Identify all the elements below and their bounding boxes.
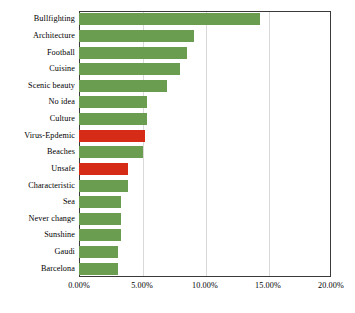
bar-fill [79, 163, 128, 175]
category-label: Cuisine [0, 63, 75, 75]
bar-fill [79, 113, 147, 125]
category-label: No idea [0, 96, 75, 108]
x-tick-label: 0.00% [68, 281, 90, 290]
bar-fill [79, 229, 121, 241]
x-tick-label: 20.00% [318, 281, 344, 290]
bars-layer [79, 11, 331, 277]
category-label: Scenic beauty [0, 80, 75, 92]
bar [79, 113, 147, 125]
bar [79, 96, 147, 108]
bar [79, 146, 143, 158]
value-axis: 0.00%5.00%10.00%15.00%20.00% [79, 281, 331, 295]
bar [79, 130, 145, 142]
category-label: Barcelona [0, 263, 75, 275]
bar-fill [79, 196, 121, 208]
bar-fill [79, 180, 128, 192]
bar [79, 196, 121, 208]
bar-chart: BullfightingArchitectureFootballCuisineS… [0, 0, 355, 313]
bar [79, 63, 180, 75]
bar-fill [79, 63, 180, 75]
bar [79, 213, 121, 225]
bar [79, 180, 128, 192]
category-label: Football [0, 47, 75, 59]
bar-fill [79, 30, 194, 42]
category-label: Sunshine [0, 229, 75, 241]
bar [79, 263, 118, 275]
x-tick-label: 5.00% [131, 281, 153, 290]
bar-fill [79, 80, 167, 92]
bar [79, 229, 121, 241]
bar-fill [79, 263, 118, 275]
bar-fill [79, 47, 187, 59]
bar-fill [79, 146, 143, 158]
bar [79, 30, 194, 42]
bar-fill [79, 130, 145, 142]
category-label: Characteristic [0, 180, 75, 192]
category-label: Architecture [0, 30, 75, 42]
category-axis: BullfightingArchitectureFootballCuisineS… [0, 11, 75, 277]
bar-fill [79, 246, 118, 258]
category-label: Virus-Epdemic [0, 130, 75, 142]
x-tick-label: 15.00% [255, 281, 281, 290]
x-tick-label: 10.00% [192, 281, 218, 290]
bar-fill [79, 213, 121, 225]
bar [79, 163, 128, 175]
category-label: Sea [0, 196, 75, 208]
bar-fill [79, 13, 260, 25]
bar [79, 47, 187, 59]
category-label: Culture [0, 113, 75, 125]
category-label: Bullfighting [0, 13, 75, 25]
category-label: Never change [0, 213, 75, 225]
category-label: Unsafe [0, 163, 75, 175]
bar [79, 13, 260, 25]
bar [79, 246, 118, 258]
category-label: Beaches [0, 146, 75, 158]
bar [79, 80, 167, 92]
category-label: Gaudi [0, 246, 75, 258]
bar-fill [79, 96, 147, 108]
